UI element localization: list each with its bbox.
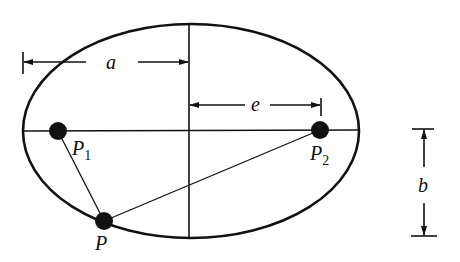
major-axis	[23, 130, 359, 131]
label-p: P	[94, 232, 107, 254]
label-b: b	[418, 174, 428, 196]
focus-p2-dot	[311, 121, 329, 139]
focus-p1-dot	[49, 122, 67, 140]
ellipse-diagram: a e b P1 P2 P	[0, 0, 460, 262]
label-p1: P1	[71, 137, 91, 163]
label-e: e	[251, 93, 260, 115]
point-p-dot	[95, 212, 113, 230]
label-a: a	[106, 51, 116, 73]
label-p2: P2	[309, 142, 329, 168]
line-p-p2	[104, 130, 320, 221]
